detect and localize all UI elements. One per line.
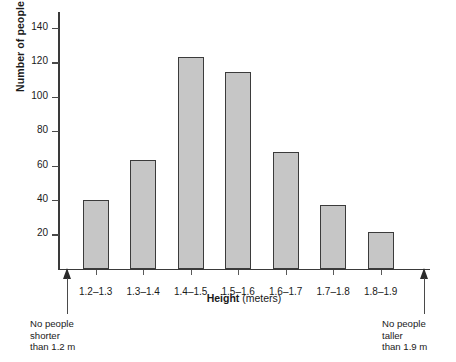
bar-3: [178, 57, 204, 269]
annotation-right-line-1: No people: [382, 318, 427, 330]
x-tick-6: [333, 270, 334, 275]
bar-7: [368, 232, 394, 268]
y-tick-label-120: 120: [31, 55, 48, 66]
y-tick-60: 60: [52, 166, 59, 167]
y-tick-label-40: 40: [37, 193, 48, 204]
y-axis-title: Number of people: [14, 0, 26, 92]
y-tick-label-20: 20: [37, 227, 48, 238]
y-tick-label-100: 100: [31, 90, 48, 101]
y-tick-100: 100: [52, 97, 59, 98]
y-tick-40: 40: [52, 200, 59, 201]
left-axis-arrow: [60, 268, 74, 314]
right-axis-arrow: [417, 268, 431, 314]
x-tick-2: [143, 270, 144, 275]
x-axis-line: [58, 269, 430, 271]
bar-6: [320, 205, 346, 269]
y-tick-label-80: 80: [37, 124, 48, 135]
bar-2: [130, 160, 156, 268]
y-tick-80: 80: [52, 131, 59, 132]
x-tick-1: [96, 270, 97, 275]
annotation-right: No people taller than 1.9 m: [382, 318, 427, 353]
annotation-left-line-2: shorter: [30, 330, 75, 342]
annotation-left-line-3: than 1.2 m: [30, 341, 75, 353]
plot-area: 20 40 60 80 100 120 140: [58, 12, 430, 270]
x-tick-4: [238, 270, 239, 275]
y-tick-20: 20: [52, 234, 59, 235]
annotation-left-line-1: No people: [30, 318, 75, 330]
x-axis-title-bold: Height: [207, 292, 240, 304]
x-tick-3: [191, 270, 192, 275]
y-tick-label-140: 140: [31, 21, 48, 32]
y-axis-line: [58, 12, 60, 270]
bar-4: [225, 72, 251, 268]
y-tick-120: 120: [52, 62, 59, 63]
x-tick-5: [286, 270, 287, 275]
annotation-right-line-3: than 1.9 m: [382, 341, 427, 353]
histogram-figure: Number of people 20 40 60 80 100 120 140: [0, 0, 456, 362]
bar-5: [273, 152, 299, 269]
annotation-left: No people shorter than 1.2 m: [30, 318, 75, 353]
x-axis-title-units: (meters): [239, 292, 281, 304]
x-axis-title: Height (meters): [58, 292, 430, 304]
y-tick-140: 140: [52, 28, 59, 29]
bar-1: [83, 200, 109, 269]
x-tick-7: [381, 270, 382, 275]
annotation-right-line-2: taller: [382, 330, 427, 342]
y-tick-label-60: 60: [37, 159, 48, 170]
